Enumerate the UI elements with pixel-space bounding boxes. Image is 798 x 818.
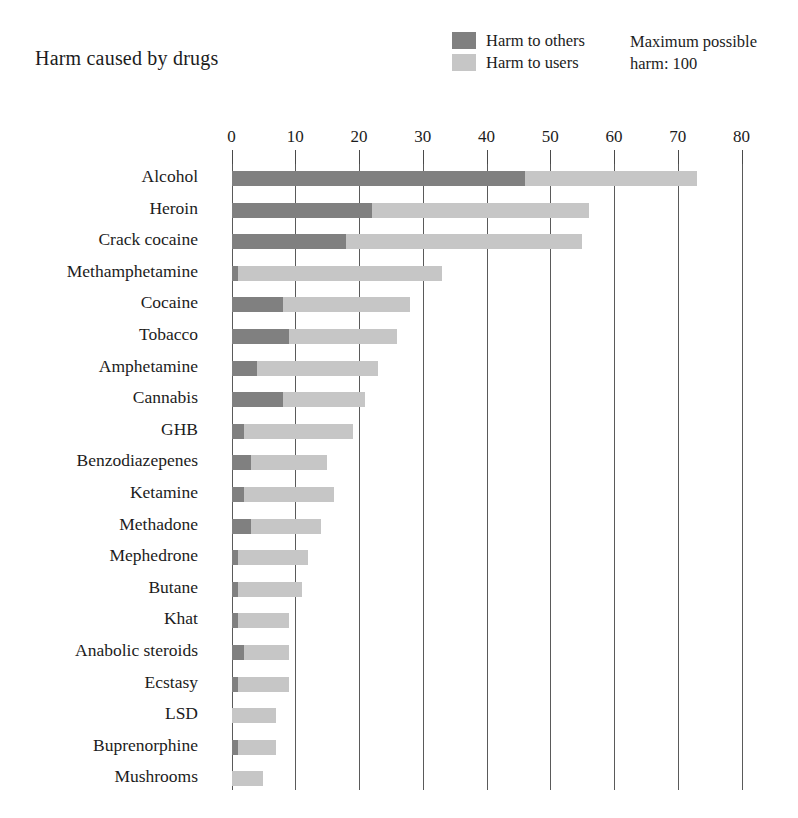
bar-row [0,487,798,502]
bar-segment-harm-to-others [232,487,245,502]
bar-row [0,771,798,786]
bar-segment-harm-to-users [251,519,321,534]
bar-row [0,234,798,249]
x-axis-tick-mark [742,150,743,164]
bar-row [0,392,798,407]
bar-row [0,424,798,439]
x-axis-tick-label: 50 [542,127,559,147]
bar-segment-harm-to-users [238,677,289,692]
gridline [295,164,296,790]
bar-segment-harm-to-users [289,329,397,344]
x-axis-tick-label: 70 [669,127,686,147]
bar-segment-harm-to-others [232,171,525,186]
bar-segment-harm-to-users [283,297,411,312]
x-axis-tick-mark [359,150,360,164]
x-axis-tick-mark [232,150,233,164]
gridline [550,164,551,790]
bar-row [0,645,798,660]
x-axis-tick-mark [423,150,424,164]
bar-segment-harm-to-users [238,613,289,628]
bar-row [0,455,798,470]
bar-row [0,171,798,186]
bar-segment-harm-to-others [232,424,245,439]
bar-segment-harm-to-users [257,361,378,376]
x-axis-tick-label: 20 [351,127,368,147]
gridline [614,164,615,790]
bar-row [0,677,798,692]
x-axis-tick-mark [678,150,679,164]
x-axis-tick-mark [550,150,551,164]
x-axis-tick-label: 0 [227,127,236,147]
bar-row [0,550,798,565]
chart-plot-area: 01020304050607080AlcoholHeroinCrack coca… [0,0,798,818]
bar-row [0,266,798,281]
bar-row [0,203,798,218]
gridline [487,164,488,790]
x-axis-tick-mark [487,150,488,164]
bar-segment-harm-to-others [232,361,258,376]
bar-segment-harm-to-users [232,771,264,786]
bar-segment-harm-to-users [244,424,352,439]
x-axis-tick-label: 10 [287,127,304,147]
bar-segment-harm-to-users [346,234,582,249]
bar-segment-harm-to-users [372,203,589,218]
bar-row [0,329,798,344]
bar-segment-harm-to-users [238,740,276,755]
bar-segment-harm-to-others [232,392,283,407]
bar-segment-harm-to-users [251,455,328,470]
bar-segment-harm-to-users [283,392,366,407]
gridline [359,164,360,790]
chart-page: Harm caused by drugs Harm to others Harm… [0,0,798,818]
gridline [423,164,424,790]
bar-segment-harm-to-others [232,455,251,470]
bar-row [0,708,798,723]
x-axis-tick-label: 60 [606,127,623,147]
gridline [742,164,743,790]
bar-segment-harm-to-users [232,708,277,723]
bar-segment-harm-to-users [244,645,289,660]
gridline [232,164,233,790]
bar-segment-harm-to-users [525,171,697,186]
bar-row [0,519,798,534]
x-axis-tick-mark [614,150,615,164]
x-axis-tick-label: 40 [478,127,495,147]
bar-segment-harm-to-others [232,297,283,312]
bar-segment-harm-to-users [238,266,442,281]
gridline [678,164,679,790]
bar-segment-harm-to-others [232,645,245,660]
x-axis-tick-mark [295,150,296,164]
bar-row [0,361,798,376]
bar-segment-harm-to-others [232,234,347,249]
bar-row [0,582,798,597]
bar-segment-harm-to-users [238,550,308,565]
bar-segment-harm-to-users [238,582,302,597]
bar-segment-harm-to-users [244,487,333,502]
x-axis-tick-label: 30 [414,127,431,147]
bar-segment-harm-to-others [232,203,372,218]
bar-segment-harm-to-others [232,329,289,344]
x-axis-tick-label: 80 [733,127,750,147]
bar-row [0,613,798,628]
bar-row [0,740,798,755]
bar-row [0,297,798,312]
bar-segment-harm-to-others [232,519,251,534]
